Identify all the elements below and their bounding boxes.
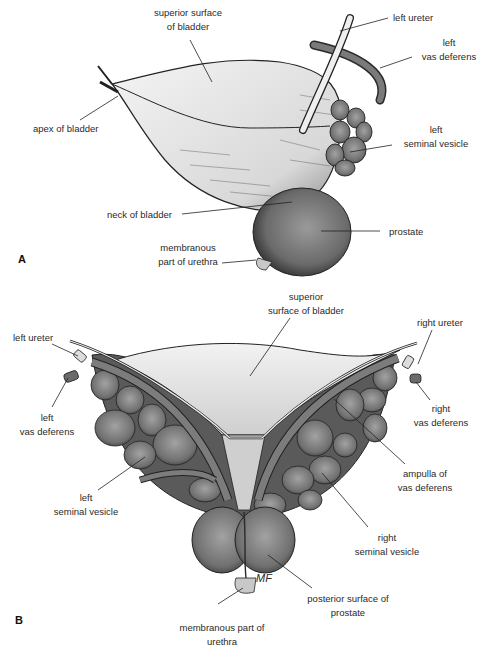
label-left-ureter-a: left ureter [393,11,433,25]
panel-label-a: A [18,253,26,265]
label-left-ureter-b: left ureter [13,331,53,345]
figure-a [80,18,412,276]
label-right-vas-b: right vas deferens [404,402,478,430]
label-left-sv-b: left seminal vesicle [46,491,126,519]
label-posterior-prostate-b: posterior surface of prostate [298,592,398,620]
label-prostate-a: prostate [389,225,423,239]
label-neck-a: neck of bladder [107,208,172,222]
label-left-vas-a: left vas deferens [412,36,486,64]
label-ampulla-b: ampulla of vas deferens [388,467,462,495]
label-superior-surface-b: superior surface of bladder [256,290,356,318]
label-apex-a: apex of bladder [33,122,99,136]
label-right-sv-b: right seminal vesicle [347,531,427,559]
artist-signature: MF [256,571,272,585]
label-superior-surface-a: superior surface of bladder [138,6,238,34]
label-left-sv-a: left seminal vesicle [396,123,476,151]
figure-b [52,318,432,604]
label-left-vas-b: left vas deferens [10,411,84,439]
label-right-ureter-b: right ureter [417,316,463,330]
label-membranous-b: membranous part of urethra [172,621,272,649]
label-membranous-a: membranous part of urethra [148,241,228,269]
panel-label-b: B [15,614,23,626]
